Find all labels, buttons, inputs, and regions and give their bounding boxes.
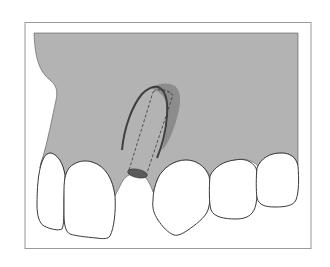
tooth-left-lateral	[37, 153, 65, 230]
tooth-central-incisor	[64, 161, 115, 239]
tooth-premolar-1	[209, 159, 257, 219]
dental-diagram	[0, 0, 330, 267]
tooth-premolar-2	[256, 153, 298, 207]
figure-canvas	[0, 0, 330, 267]
